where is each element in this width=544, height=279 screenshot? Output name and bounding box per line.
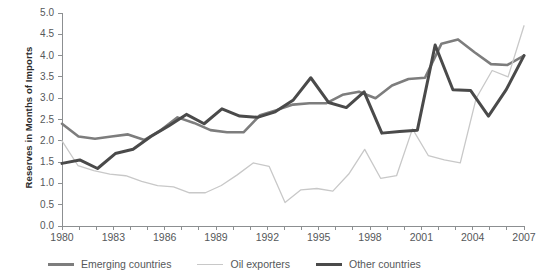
y-tick-label: 3.0 [28,93,54,103]
legend-label: Other countries [349,258,421,270]
legend-item-other-countries[interactable]: Other countries [316,258,421,270]
chart-legend: Emerging countriesOil exportersOther cou… [0,255,544,273]
y-tick-label: 0.5 [28,200,54,210]
y-tick-label: 1.5 [28,157,54,167]
y-tick-label: 5.0 [28,8,54,18]
x-tick-label: 2004 [453,231,493,243]
series-line-other-countries [62,45,524,169]
x-tick-label: 1983 [93,231,133,243]
series-line-oil-exporters [62,26,524,203]
x-tick-label: 1998 [350,231,390,243]
axis-lines [62,13,524,226]
y-tick-label: 3.5 [28,72,54,82]
legend-label: Emerging countries [81,258,171,270]
y-tick-label: 4.0 [28,51,54,61]
legend-item-oil-exporters[interactable]: Oil exporters [197,258,290,270]
y-tick-label: 1.0 [28,178,54,188]
legend-item-emerging-countries[interactable]: Emerging countries [48,258,171,270]
x-tick-label: 1986 [145,231,185,243]
x-tick-label: 2001 [401,231,441,243]
legend-line-emerging [48,263,74,266]
legend-line-other [316,263,342,266]
y-tick-label: 4.5 [28,29,54,39]
x-tick-label: 1995 [299,231,339,243]
x-tick-label: 2007 [504,231,544,243]
chart-container: Reserves in Months of Imports 0.00.51.01… [0,0,544,279]
y-tick-label: 2.5 [28,115,54,125]
legend-label: Oil exporters [230,258,290,270]
legend-line-oil [197,264,223,265]
x-tick-label: 1980 [42,231,82,243]
series-lines [62,26,524,203]
x-tick-label: 1992 [247,231,287,243]
y-tick-label: 0.0 [28,221,54,231]
y-tick-label: 2.0 [28,136,54,146]
x-tick-label: 1989 [196,231,236,243]
